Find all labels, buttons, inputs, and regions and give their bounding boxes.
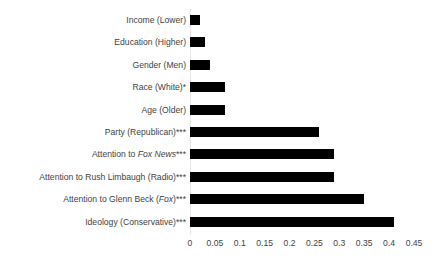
category-label-text: Race (White)* <box>133 76 186 98</box>
category-label-text: Ideology (Conservative)*** <box>85 211 186 233</box>
bar-row <box>190 143 414 165</box>
category-label-gender: Gender (Men) <box>0 54 186 76</box>
category-label-text: Attention to Rush Limbaugh (Radio)*** <box>39 166 186 188</box>
bar-row <box>190 211 414 233</box>
category-label-text: Attention to Glenn Beck (Fox)*** <box>63 188 186 210</box>
bar-row <box>190 31 414 53</box>
bar-gender <box>190 60 210 70</box>
x-tick-0.35: 0.35 <box>356 236 373 250</box>
plot-area <box>190 9 414 233</box>
bar-glenn-beck <box>190 194 364 204</box>
bar-row <box>190 121 414 143</box>
category-label-glenn-beck: Attention to Glenn Beck (Fox)*** <box>0 188 186 210</box>
x-tick-0.15: 0.15 <box>256 236 273 250</box>
x-tick-0.05: 0.05 <box>207 236 224 250</box>
x-tick-0: 0 <box>188 236 193 250</box>
x-tick-0.4: 0.4 <box>383 236 395 250</box>
bar-race <box>190 82 225 92</box>
category-label-income: Income (Lower) <box>0 9 186 31</box>
category-label-text: Income (Lower) <box>126 9 186 31</box>
bar-fox-news <box>190 149 334 159</box>
category-label-race: Race (White)* <box>0 76 186 98</box>
category-label-text: Party (Republican)*** <box>105 121 186 143</box>
category-label-text: Education (Higher) <box>114 31 186 53</box>
bar-education <box>190 37 205 47</box>
bar-rush-limbaugh <box>190 172 334 182</box>
bar-age <box>190 105 225 115</box>
bar-ideology <box>190 217 394 227</box>
x-tick-0.3: 0.3 <box>333 236 345 250</box>
bar-row <box>190 9 414 31</box>
x-tick-0.25: 0.25 <box>306 236 323 250</box>
category-label-party: Party (Republican)*** <box>0 121 186 143</box>
x-axis-tick-labels: 0 0.05 0.1 0.15 0.2 0.25 0.3 0.35 0.4 0.… <box>190 236 414 256</box>
bar-row <box>190 99 414 121</box>
x-tick-0.1: 0.1 <box>234 236 246 250</box>
category-label-ideology: Ideology (Conservative)*** <box>0 211 186 233</box>
category-label-fox-news: Attention to Fox News*** <box>0 143 186 165</box>
category-label-rush-limbaugh: Attention to Rush Limbaugh (Radio)*** <box>0 166 186 188</box>
bar-row <box>190 54 414 76</box>
x-tick-0.2: 0.2 <box>284 236 296 250</box>
bar-row <box>190 188 414 210</box>
category-label-age: Age (Older) <box>0 99 186 121</box>
category-label-text: Age (Older) <box>142 99 186 121</box>
category-label-education: Education (Higher) <box>0 31 186 53</box>
bar-row <box>190 76 414 98</box>
bar-row <box>190 166 414 188</box>
bar-party <box>190 127 319 137</box>
category-label-text: Gender (Men) <box>133 54 187 76</box>
category-axis-labels: Income (Lower) Education (Higher) Gender… <box>0 9 186 233</box>
category-label-text: Attention to Fox News*** <box>92 143 186 165</box>
bar-chart: Income (Lower) Education (Higher) Gender… <box>0 0 441 265</box>
x-tick-0.45: 0.45 <box>406 236 423 250</box>
bar-income <box>190 15 200 25</box>
